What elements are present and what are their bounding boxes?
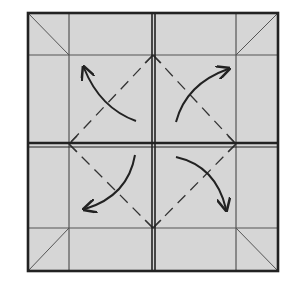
origami-diagram — [0, 0, 291, 285]
diagram-canvas — [0, 0, 291, 285]
